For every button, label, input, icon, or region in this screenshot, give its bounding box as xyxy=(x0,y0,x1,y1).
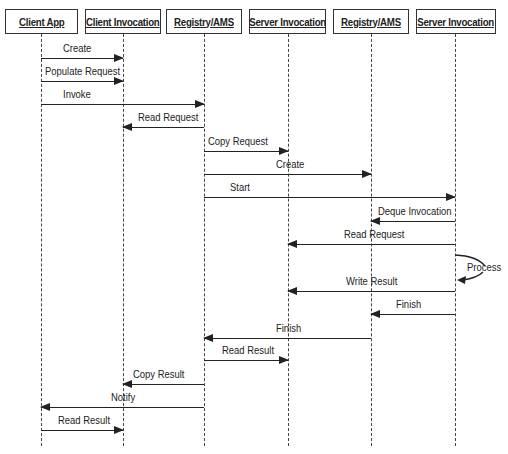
message-label: Copy Result xyxy=(133,368,184,380)
actor-registry-ams-1: Registry/AMS xyxy=(166,9,242,34)
message-label: Populate Request xyxy=(45,65,120,77)
actor-registry-ams-2: Registry/AMS xyxy=(333,9,409,34)
arrow-right-icon xyxy=(114,77,124,85)
actor-label: Server Invocation xyxy=(249,16,326,28)
message-copy-result xyxy=(123,384,204,385)
lifeline-server-invocation-2 xyxy=(455,34,456,446)
arrow-right-icon xyxy=(114,54,124,62)
message-read-result-client xyxy=(41,430,123,431)
lifeline-registry-ams-2 xyxy=(371,34,372,446)
actor-label: Server Invocation xyxy=(418,16,495,28)
message-invoke xyxy=(41,104,204,105)
actor-server-invocation-1: Server Invocation xyxy=(249,9,326,34)
actor-client-invocation: Client Invocation xyxy=(85,9,161,34)
message-label: Deque Invocation xyxy=(378,205,452,217)
message-label: Invoke xyxy=(63,88,91,100)
arrow-right-icon xyxy=(362,170,372,178)
message-label: Create xyxy=(63,42,91,54)
arrow-left-icon xyxy=(287,240,297,248)
arrow-right-icon xyxy=(114,426,124,434)
message-read-request-server xyxy=(288,244,455,245)
arrow-right-icon xyxy=(195,100,205,108)
message-label: Create xyxy=(276,158,304,170)
arrow-right-icon xyxy=(446,193,456,201)
message-label: Copy Request xyxy=(208,135,268,147)
message-create xyxy=(41,58,123,59)
message-label: Process xyxy=(467,261,501,273)
message-finish-server xyxy=(371,314,455,315)
actor-label: Client Invocation xyxy=(86,16,160,28)
message-notify xyxy=(41,407,204,408)
arrow-left-icon xyxy=(370,310,380,318)
message-start xyxy=(204,197,455,198)
actor-label: Registry/AMS xyxy=(174,16,234,28)
arrow-left-icon xyxy=(122,123,132,131)
message-label: Read Request xyxy=(344,228,404,240)
arrow-left-icon xyxy=(122,380,132,388)
actor-client-app: Client App xyxy=(5,9,78,34)
message-label: Read Request xyxy=(138,111,198,123)
message-label: Read Result xyxy=(222,344,274,356)
message-label: Write Result xyxy=(346,275,397,287)
message-label: Notify xyxy=(111,391,135,403)
arrow-left-icon xyxy=(370,217,380,225)
actor-label: Client App xyxy=(19,16,64,28)
message-create-registry xyxy=(204,174,371,175)
message-label: Start xyxy=(230,181,250,193)
lifeline-registry-ams-1 xyxy=(204,34,205,446)
lifeline-client-app xyxy=(41,34,42,446)
arrow-left-icon xyxy=(40,403,50,411)
message-copy-request xyxy=(204,151,288,152)
arrow-left-icon xyxy=(203,334,213,342)
message-deque-invocation xyxy=(371,221,455,222)
message-populate-request xyxy=(41,81,123,82)
message-label: Read Result xyxy=(58,414,110,426)
message-finish-registry xyxy=(204,338,371,339)
message-label: Finish xyxy=(396,298,421,310)
actor-server-invocation-2: Server Invocation xyxy=(416,9,496,34)
message-read-request xyxy=(123,127,204,128)
actor-label: Registry/AMS xyxy=(341,16,401,28)
sequence-diagram: Client App Client Invocation Registry/AM… xyxy=(0,0,508,454)
arrow-right-icon xyxy=(279,356,289,364)
message-write-result xyxy=(288,291,455,292)
arrow-left-icon xyxy=(287,287,297,295)
arrow-right-icon xyxy=(279,147,289,155)
message-read-result-registry xyxy=(204,360,288,361)
message-label: Finish xyxy=(276,322,301,334)
